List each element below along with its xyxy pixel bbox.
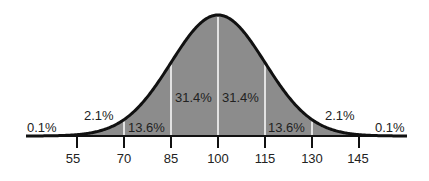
x-ticks xyxy=(77,136,359,148)
label-band-85-100: 31.4% xyxy=(175,90,212,105)
label-band-115-130: 13.6% xyxy=(268,120,305,135)
normal-distribution-chart: 0.1% 2.1% 13.6% 31.4% 31.4% 13.6% 2.1% 0… xyxy=(0,0,429,181)
tick-label-145: 145 xyxy=(347,151,369,166)
label-tail-left: 0.1% xyxy=(27,120,57,135)
label-band-130-145: 2.1% xyxy=(325,108,355,123)
label-tail-right: 0.1% xyxy=(375,120,405,135)
tick-label-70: 70 xyxy=(117,151,131,166)
tick-label-115: 115 xyxy=(255,151,276,166)
tick-label-100: 100 xyxy=(207,151,229,166)
label-band-100-115: 31.4% xyxy=(222,90,259,105)
tick-label-130: 130 xyxy=(301,151,323,166)
label-band-70-85: 13.6% xyxy=(128,120,165,135)
label-band-55-70: 2.1% xyxy=(84,108,114,123)
tick-label-85: 85 xyxy=(164,151,178,166)
tick-label-55: 55 xyxy=(66,151,80,166)
